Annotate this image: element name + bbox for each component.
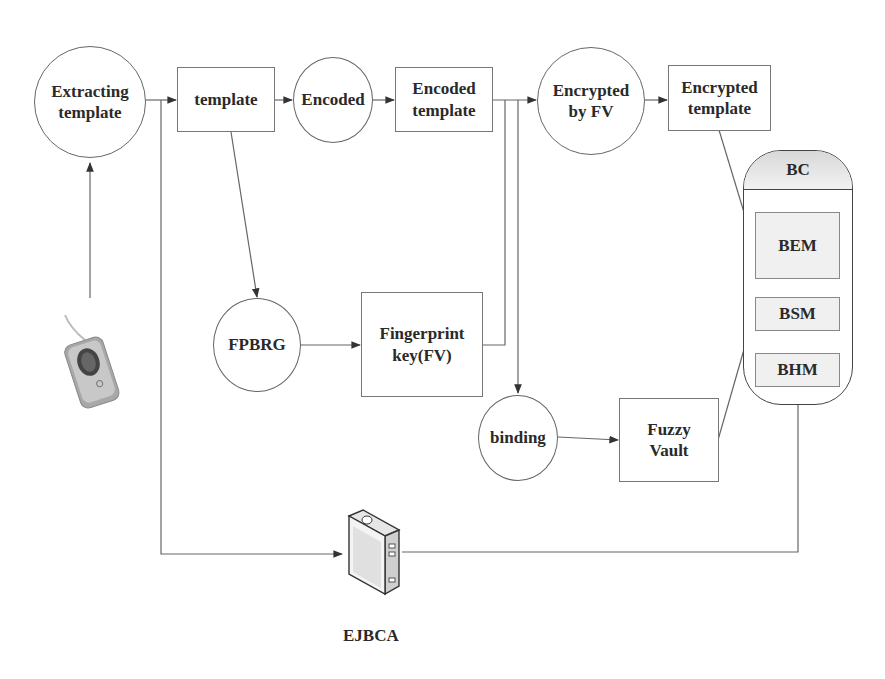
node-encoded-template[interactable]: Encoded template xyxy=(395,67,493,132)
edge-binding-to-fuzzy-vault xyxy=(558,437,618,440)
node-encoded[interactable]: Encoded xyxy=(293,57,373,143)
bc-title: BC xyxy=(744,151,852,190)
node-fingerprint-key[interactable]: Fingerprint key(FV) xyxy=(361,292,483,397)
edge-template-to-fpbrg xyxy=(231,132,257,297)
node-binding[interactable]: binding xyxy=(478,395,558,481)
node-extracting-template[interactable]: Extracting template xyxy=(34,46,146,158)
bc-container[interactable]: BC BEM BSM BHM xyxy=(743,150,853,405)
bc-module-bem[interactable]: BEM xyxy=(755,212,840,279)
server-icon[interactable] xyxy=(343,508,403,603)
edge-fingerprint-key-to-main xyxy=(482,100,505,345)
node-fpbrg[interactable]: FPBRG xyxy=(213,298,301,392)
bc-module-bsm[interactable]: BSM xyxy=(755,297,840,331)
edge-ejbca-to-bhm xyxy=(402,387,798,552)
fingerprint-scanner-icon xyxy=(55,310,125,415)
bc-module-bhm[interactable]: BHM xyxy=(755,353,840,387)
ejbca-label: EJBCA xyxy=(343,626,399,646)
node-fuzzy-vault[interactable]: Fuzzy Vault xyxy=(619,398,719,482)
node-encrypted-by-fv[interactable]: Encrypted by FV xyxy=(537,47,645,155)
node-encrypted-template[interactable]: Encrypted template xyxy=(668,65,771,131)
node-template[interactable]: template xyxy=(177,67,275,132)
